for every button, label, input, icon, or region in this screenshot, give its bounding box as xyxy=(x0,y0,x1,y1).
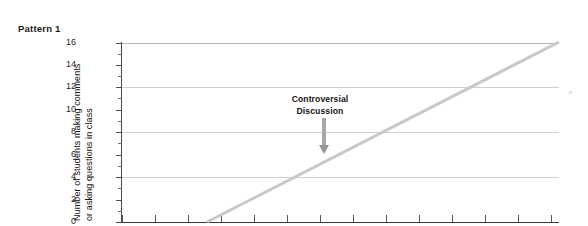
y-minor-tick-5 xyxy=(118,166,122,167)
y-tick-label-0: 0 xyxy=(56,217,76,226)
y-minor-tick-15 xyxy=(118,54,122,55)
gridline-4 xyxy=(122,177,559,178)
scan-artifact xyxy=(569,91,572,94)
x-tick-6 xyxy=(320,215,321,222)
x-tick-4 xyxy=(254,215,255,222)
x-tick-3 xyxy=(221,215,222,222)
y-tick-12 xyxy=(116,87,122,88)
gridline-8 xyxy=(122,132,559,133)
annotation-label: Controversial Discussion xyxy=(262,94,378,117)
x-tick-10 xyxy=(452,215,453,222)
y-tick-8 xyxy=(116,132,122,133)
y-minor-tick-3 xyxy=(118,188,122,189)
y-tick-label-16: 16 xyxy=(56,38,76,47)
x-tick-7 xyxy=(353,215,354,222)
x-tick-0 xyxy=(122,215,123,222)
y-axis-label: Number of students making comments or as… xyxy=(0,0,100,226)
y-tick-label-12: 12 xyxy=(56,82,76,91)
y-tick-label-2: 2 xyxy=(56,195,76,204)
y-minor-tick-7 xyxy=(118,143,122,144)
annotation-line-1: Controversial xyxy=(262,94,378,106)
y-minor-tick-9 xyxy=(118,121,122,122)
y-tick-14 xyxy=(116,65,122,66)
x-tick-13 xyxy=(551,215,552,222)
x-tick-2 xyxy=(188,215,189,222)
x-tick-8 xyxy=(386,215,387,222)
y-tick-6 xyxy=(116,155,122,156)
x-tick-12 xyxy=(518,215,519,222)
y-tick-label-14: 14 xyxy=(56,60,76,69)
x-tick-11 xyxy=(485,215,486,222)
y-tick-10 xyxy=(116,110,122,111)
y-tick-label-6: 6 xyxy=(56,150,76,159)
gridline-16 xyxy=(122,43,559,44)
y-tick-0 xyxy=(116,222,122,223)
y-tick-label-4: 4 xyxy=(56,172,76,181)
y-minor-tick-1 xyxy=(118,211,122,212)
x-tick-5 xyxy=(287,215,288,222)
figure-canvas: Pattern 1 Number of students making comm… xyxy=(0,0,588,226)
y-tick-16 xyxy=(116,43,122,44)
x-tick-1 xyxy=(155,215,156,222)
y-axis-label-line-2: or asking questions in class xyxy=(84,108,94,221)
plot-area xyxy=(122,43,559,222)
y-minor-tick-11 xyxy=(118,98,122,99)
y-tick-label-8: 8 xyxy=(56,127,76,136)
y-tick-4 xyxy=(116,177,122,178)
y-tick-2 xyxy=(116,200,122,201)
down-arrow-icon xyxy=(313,118,335,156)
annotation-line-2: Discussion xyxy=(262,106,378,118)
gridline-12 xyxy=(122,87,559,88)
x-axis-spine xyxy=(121,222,559,223)
y-tick-label-10: 10 xyxy=(56,105,76,114)
y-minor-tick-13 xyxy=(118,76,122,77)
x-tick-9 xyxy=(419,215,420,222)
